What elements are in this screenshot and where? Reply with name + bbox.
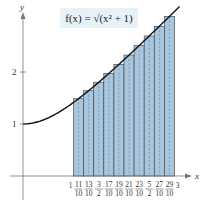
x-tick-numerator: 11 (75, 180, 82, 189)
x-axis-arrow-icon (185, 174, 192, 179)
x-tick-denominator: 10 (115, 189, 123, 198)
y-tick-label-1: 1 (12, 119, 17, 129)
x-tick-numerator: 3 (97, 180, 101, 189)
x-tick-denominator: 10 (85, 189, 93, 198)
x-tick-denominator: 10 (75, 189, 83, 198)
y-axis-label: y (19, 2, 24, 12)
x-tick-denominator: 10 (135, 189, 143, 198)
x-tick-denominator: 2 (147, 189, 151, 198)
x-tick-numerator: 13 (85, 180, 93, 189)
bar (154, 26, 164, 176)
bar (164, 16, 174, 176)
chart: y x 2 1 11110131032171019102110231052271… (0, 0, 210, 206)
x-tick-numerator: 5 (147, 180, 151, 189)
x-tick-denominator: 10 (166, 189, 174, 198)
x-tick-denominator: 2 (97, 189, 101, 198)
y-tick-label-2: 2 (12, 67, 17, 77)
y-axis-arrow-icon (21, 12, 26, 19)
bar (94, 82, 104, 176)
x-tick-numerator: 17 (105, 180, 113, 189)
x-tick-label: 1 (69, 181, 73, 190)
x-tick-numerator: 23 (135, 180, 143, 189)
formula-label: f(x) = √(x² + 1) (60, 8, 138, 28)
x-tick-labels: 11110131032171019102110231052271029103 (69, 180, 180, 198)
x-tick-denominator: 10 (105, 189, 113, 198)
x-tick-numerator: 29 (166, 180, 174, 189)
x-axis-label: x (194, 171, 199, 181)
bar (104, 73, 114, 176)
riemann-bars (74, 16, 175, 176)
x-tick-label: 3 (176, 181, 180, 190)
x-tick-denominator: 10 (156, 189, 164, 198)
x-tick-numerator: 19 (115, 180, 123, 189)
x-tick-numerator: 27 (156, 180, 164, 189)
x-tick-numerator: 21 (125, 180, 133, 189)
x-tick-denominator: 10 (125, 189, 133, 198)
